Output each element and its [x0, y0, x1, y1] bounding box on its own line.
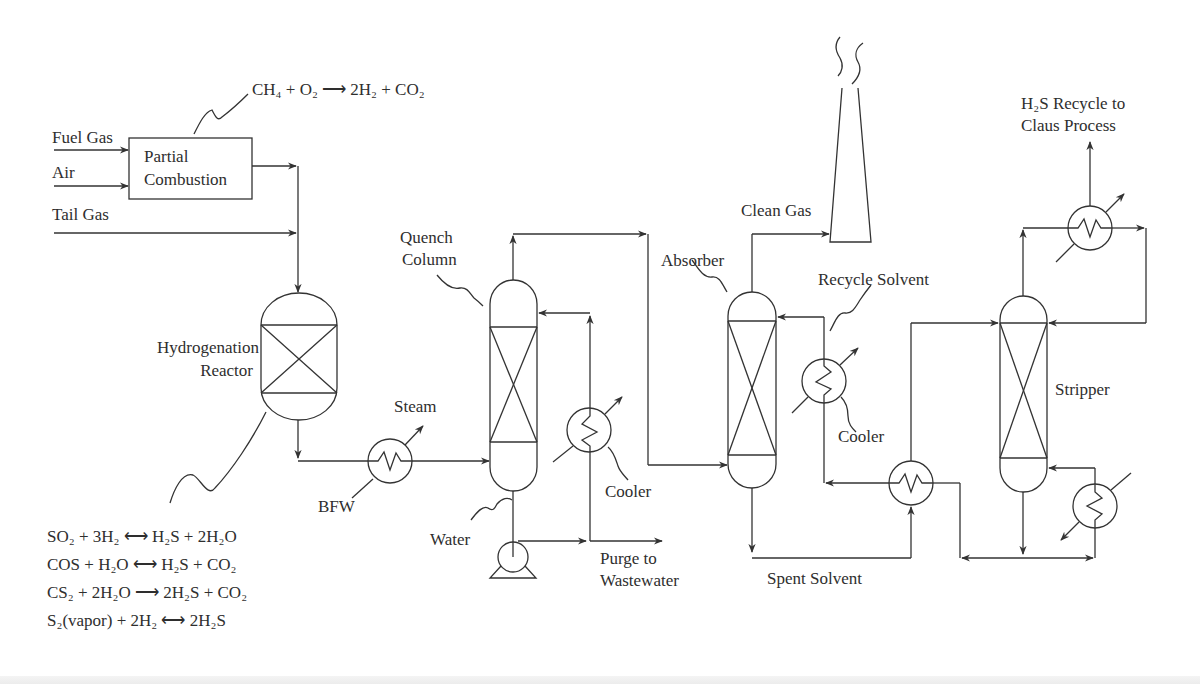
waste-heat-exchanger: [352, 426, 423, 498]
partial-combustion-label-line1: Partial: [144, 147, 188, 167]
reaction-cs2-equation: CS₂ + 2H₂O ⟶ 2H₂S + CO₂: [47, 583, 247, 603]
spent-solvent-line: [752, 488, 911, 558]
solvent-cooler-label: Cooler: [838, 427, 884, 447]
steam-label: Steam: [394, 397, 437, 417]
partial-combustion-equation: CH₄ + O₂ ⟶ 2H₂ + CO₂: [252, 80, 425, 100]
hydrogenation-reactor: [261, 293, 337, 420]
hydrogenation-reactor-label-line1: Hydrogenation: [157, 338, 253, 358]
recycle-solvent-label: Recycle Solvent: [818, 270, 929, 290]
pump-discharge-line: [518, 313, 662, 541]
stripper-column: [1000, 296, 1047, 492]
stripper-bottoms-line: [933, 468, 1095, 558]
partial-combustion-label-line2: Combustion: [144, 170, 227, 190]
reaction-so2-equation: SO₂ + 3H₂ ⟷ H₂S + 2H₂O: [47, 527, 237, 547]
rich-solvent-to-stripper-line: [911, 323, 998, 461]
quench-column: [490, 280, 537, 491]
hydrogenation-reactor-label-line2: Reactor: [157, 361, 253, 381]
recycle-solvent-leader-line: [830, 285, 871, 331]
h2s-recycle-label-line2: Claus Process: [1021, 116, 1116, 136]
reactor-leader-line: [170, 412, 266, 503]
quench-column-label-line1: Quench: [400, 228, 453, 248]
tail-gas-label: Tail Gas: [52, 205, 109, 225]
purge-label-line1: Purge to: [600, 549, 657, 569]
quench-column-label-line2: Column: [402, 250, 457, 270]
quench-leader-line: [437, 275, 483, 306]
absorber-label: Absorber: [661, 251, 724, 271]
bottom-edge-strip: [0, 676, 1200, 684]
reaction-s2-equation: S₂(vapor) + 2H₂ ⟷ 2H₂S: [47, 611, 226, 631]
h2s-recycle-label-line1: H₂S Recycle to: [1021, 94, 1125, 114]
fuel-gas-label: Fuel Gas: [52, 128, 113, 148]
air-label: Air: [52, 163, 75, 183]
reaction-cos-equation: COS + H₂O ⟷ H₂S + CO₂: [47, 555, 236, 575]
lean-rich-exchanger: [889, 461, 933, 505]
reactor-outlet-line: [298, 420, 489, 461]
reboiler: [1061, 473, 1131, 540]
stack: [830, 37, 871, 242]
recycle-solvent-line: [778, 317, 889, 483]
absorber-column: [728, 292, 776, 488]
bfw-label: BFW: [318, 497, 355, 517]
water-leader-line: [471, 498, 512, 520]
clean-gas-label: Clean Gas: [741, 201, 811, 221]
stripper-label: Stripper: [1055, 380, 1110, 400]
stripper-overhead-line: [1023, 228, 1146, 323]
quench-cooler-leader-line: [608, 447, 628, 480]
spent-solvent-label: Spent Solvent: [767, 569, 862, 589]
purge-label-line2: Wastewater: [600, 571, 679, 591]
water-label: Water: [430, 530, 470, 550]
solvent-cooler: [792, 348, 858, 413]
combustion-leader-line: [194, 94, 248, 134]
quench-cooler-label: Cooler: [605, 482, 651, 502]
